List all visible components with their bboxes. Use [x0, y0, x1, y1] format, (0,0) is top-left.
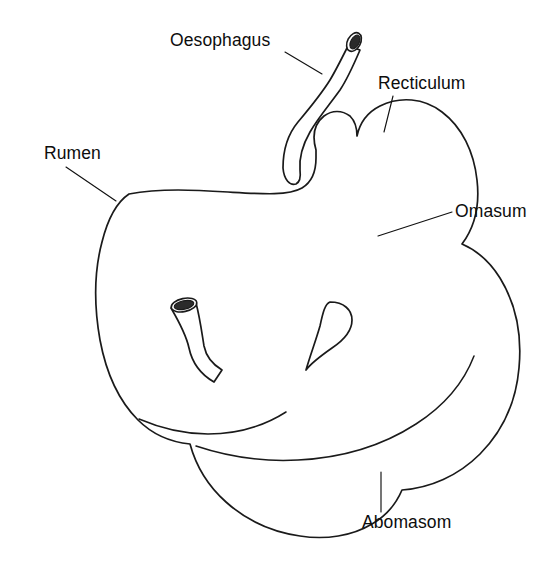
label-rumen: Rumen — [44, 143, 101, 163]
stomach-outline — [96, 100, 520, 538]
label-omasum: Omasum — [455, 201, 527, 221]
callout-oesophagus: Oesophagus — [170, 30, 322, 74]
label-abomasom: Abomasom — [362, 512, 451, 532]
callout-rumen: Rumen — [44, 143, 116, 201]
leader-line-oesophagus — [285, 52, 322, 74]
stomach-diagram-canvas: OesophagusRecticulumRumenOmasumAbomasom — [0, 0, 555, 588]
label-recticulum: Recticulum — [378, 73, 466, 93]
anatomical-figure: OesophagusRecticulumRumenOmasumAbomasom — [0, 0, 555, 588]
leader-line-rumen — [66, 167, 116, 201]
label-oesophagus: Oesophagus — [170, 30, 270, 50]
